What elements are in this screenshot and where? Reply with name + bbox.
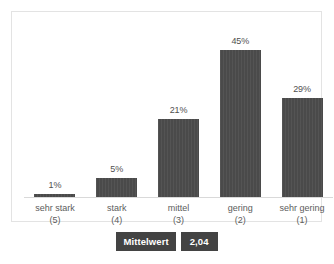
bar-value-label: 29% <box>293 84 311 95</box>
bar-group-sehr-stark: 1% <box>24 24 85 197</box>
category-code: (1) <box>272 214 333 226</box>
bar-group-sehr-gering: 29% <box>272 24 333 197</box>
category-label-gering: gering (2) <box>210 202 271 226</box>
category-name: stark <box>107 203 127 213</box>
bar-rect <box>220 50 261 197</box>
bar-group-gering: 45% <box>210 24 271 197</box>
category-axis-labels: sehr stark (5) stark (4) mittel (3) geri… <box>24 202 333 226</box>
chart-screenshot: 1% 5% 21% 45% 29% sehr stark <box>0 0 334 264</box>
bar-value-label: 5% <box>110 164 123 175</box>
bar-value-label: 21% <box>170 105 188 116</box>
category-name: sehr gering <box>280 203 325 213</box>
category-label-sehr-gering: sehr gering (1) <box>272 202 333 226</box>
axis-baseline <box>24 197 333 198</box>
category-code: (3) <box>148 214 209 226</box>
bar-rect <box>158 119 199 197</box>
bar-rect <box>34 194 75 197</box>
category-name: sehr stark <box>35 203 75 213</box>
category-label-mittel: mittel (3) <box>148 202 209 226</box>
bar-rect <box>282 98 323 197</box>
bar-rect <box>96 178 137 197</box>
bar-group-mittel: 21% <box>148 24 209 197</box>
category-code: (2) <box>210 214 271 226</box>
bar-value-label: 1% <box>48 180 61 191</box>
bar-group-stark: 5% <box>86 24 147 197</box>
legend-mean-value: 2,04 <box>181 232 218 251</box>
bar-value-label: 45% <box>231 36 249 47</box>
category-name: mittel <box>168 203 190 213</box>
chart-legend: Mittelwert 2,04 <box>0 232 334 251</box>
legend-mean-label: Mittelwert <box>116 232 175 251</box>
category-code: (4) <box>86 214 147 226</box>
category-name: gering <box>228 203 253 213</box>
chart-frame: 1% 5% 21% 45% 29% sehr stark <box>11 11 322 222</box>
bar-series: 1% 5% 21% 45% 29% <box>24 24 333 197</box>
category-code: (5) <box>24 214 85 226</box>
category-label-sehr-stark: sehr stark (5) <box>24 202 85 226</box>
category-label-stark: stark (4) <box>86 202 147 226</box>
